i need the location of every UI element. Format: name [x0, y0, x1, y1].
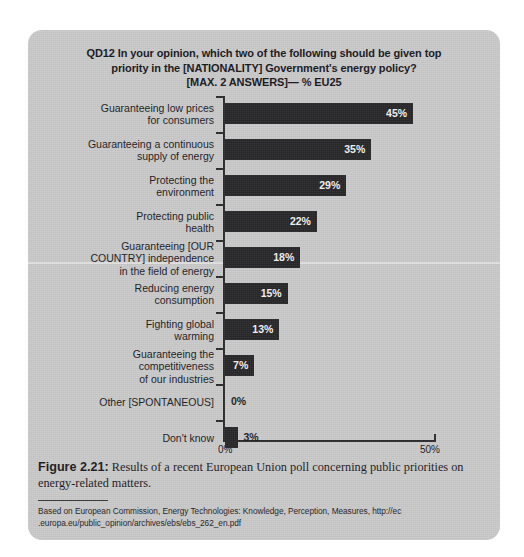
category-label-line: Don't know: [34, 432, 214, 444]
bar-value-label: 29%: [312, 175, 340, 196]
category-label-line: Protecting public: [34, 210, 214, 222]
category-label: Reducing energyconsumption: [34, 282, 214, 307]
category-label-line: environment: [34, 186, 214, 198]
category-label-line: Protecting the: [34, 174, 214, 186]
y-axis-tick: [216, 240, 223, 242]
category-label-line: health: [34, 222, 214, 234]
figure-number: Figure 2.21:: [38, 460, 109, 474]
bar-row: Don't know3%: [28, 420, 500, 456]
category-label: Protecting publichealth: [34, 210, 214, 235]
bar-row: Protecting publichealth22%: [28, 204, 500, 240]
bar-value-label: 45%: [379, 103, 407, 124]
y-axis-tick: [216, 384, 223, 386]
y-axis-tick: [216, 276, 223, 278]
bar-value-label: 13%: [245, 319, 273, 340]
category-label: Guaranteeing low pricesfor consumers: [34, 102, 214, 127]
source-divider: [38, 500, 108, 501]
bar-value-label: 18%: [266, 247, 294, 268]
figure-page: QD12 In your opinion, which two of the f…: [28, 30, 500, 540]
category-label: Guaranteeing [OURCOUNTRY] independencein…: [34, 240, 214, 277]
bar-value-label: 35%: [337, 139, 365, 160]
category-label-line: of our industries: [34, 372, 214, 384]
bar-row: Guaranteeing thecompetitivenessof our in…: [28, 348, 500, 384]
category-label-line: Fighting global: [34, 318, 214, 330]
category-label-line: consumption: [34, 294, 214, 306]
y-axis-tick: [216, 132, 223, 134]
bar-value-label: 15%: [254, 283, 282, 304]
y-axis-tick: [216, 348, 223, 350]
category-label-line: Guaranteeing the: [34, 348, 214, 360]
category-label-line: Guaranteeing a continuous: [34, 138, 214, 150]
category-label: Other [SPONTANEOUS]: [34, 396, 214, 408]
category-label: Protecting theenvironment: [34, 174, 214, 199]
bar: [225, 427, 238, 448]
category-label: Guaranteeing a continuoussupply of energ…: [34, 138, 214, 163]
bar-value-label: 3%: [244, 427, 259, 448]
y-axis-tick: [216, 420, 223, 422]
bar-row: Protecting theenvironment29%: [28, 168, 500, 204]
category-label-line: supply of energy: [34, 150, 214, 162]
bar-value-label: 0%: [231, 391, 246, 412]
bar-value-label: 22%: [283, 211, 311, 232]
bar-row: Other [SPONTANEOUS]0%: [28, 384, 500, 420]
category-label-line: competitiveness: [34, 360, 214, 372]
bar-row: Guaranteeing a continuoussupply of energ…: [28, 132, 500, 168]
y-axis-tick: [216, 204, 223, 206]
category-label-line: Guaranteeing low prices: [34, 102, 214, 114]
y-axis-tick: [216, 312, 223, 314]
category-label: Don't know: [34, 432, 214, 444]
bar-value-label: 7%: [220, 355, 248, 376]
bar-chart-plot-area: 0% 50% Guaranteeing low pricesfor consum…: [28, 30, 500, 455]
bar-row: Guaranteeing [OURCOUNTRY] independencein…: [28, 240, 500, 276]
category-label-line: Guaranteeing [OUR: [34, 240, 214, 252]
category-label: Guaranteeing thecompetitivenessof our in…: [34, 348, 214, 385]
category-label-line: Other [SPONTANEOUS]: [34, 396, 214, 408]
bar-row: Reducing energyconsumption15%: [28, 276, 500, 312]
category-label: Fighting globalwarming: [34, 318, 214, 343]
y-axis-tick: [216, 96, 223, 98]
category-label-line: in the field of energy: [34, 264, 214, 276]
source-note: Based on European Commission, Energy Tec…: [38, 506, 493, 529]
category-label-line: Reducing energy: [34, 282, 214, 294]
category-label-line: for consumers: [34, 114, 214, 126]
figure-caption: Figure 2.21: Results of a recent Europea…: [38, 460, 490, 491]
category-label-line: warming: [34, 330, 214, 342]
bar-row: Guaranteeing low pricesfor consumers45%: [28, 96, 500, 132]
bar-row: Fighting globalwarming13%: [28, 312, 500, 348]
y-axis-tick: [216, 168, 223, 170]
category-label-line: COUNTRY] independence: [34, 252, 214, 264]
